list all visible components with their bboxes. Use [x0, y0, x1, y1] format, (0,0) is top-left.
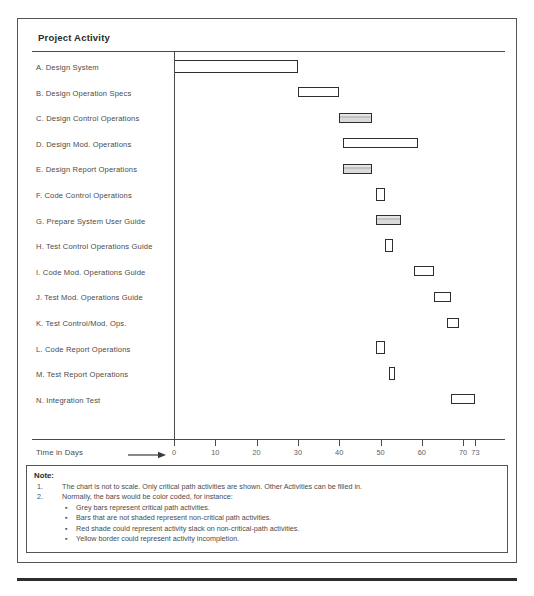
- gantt-row: J. Test Mod. Operations Guide: [18, 287, 516, 313]
- gantt-row: C. Design Control Operations: [18, 108, 516, 134]
- axis-baseline: [32, 439, 505, 440]
- axis-tick: [381, 440, 382, 446]
- gantt-bar-a[interactable]: [174, 60, 298, 73]
- bottom-rule: [17, 578, 517, 581]
- gantt-bar-n[interactable]: [451, 394, 476, 404]
- gantt-row: D. Design Mod. Operations: [18, 134, 516, 160]
- axis-tick-label: 30: [294, 448, 302, 457]
- gantt-row-label-k: K. Test Control/Mod. Ops.: [36, 319, 127, 328]
- gantt-row-label-g: G. Prepare System User Guide: [36, 217, 145, 226]
- gantt-row-label-d: D. Design Mod. Operations: [36, 140, 131, 149]
- gantt-bar-i[interactable]: [414, 266, 435, 276]
- axis-caption: Time in Days: [36, 448, 83, 457]
- gantt-row-label-n: N. Integration Test: [36, 396, 100, 405]
- gantt-row: A. Design System: [18, 57, 516, 83]
- note-item-number: 1.: [37, 482, 43, 493]
- note-bullet-item: ▪Yellow border could represent activity …: [34, 534, 500, 545]
- document-frame: Project Activity A. Design SystemB. Desi…: [17, 18, 517, 563]
- gantt-bar-d[interactable]: [343, 138, 417, 148]
- gantt-row-label-j: J. Test Mod. Operations Guide: [36, 293, 143, 302]
- axis-tick: [422, 440, 423, 446]
- gantt-row: N. Integration Test: [18, 390, 516, 416]
- gantt-row-label-f: F. Code Control Operations: [36, 191, 132, 200]
- gantt-row-label-l: L. Code Report Operations: [36, 345, 131, 354]
- gantt-row: L. Code Report Operations: [18, 339, 516, 365]
- axis-tick: [463, 440, 464, 446]
- gantt-row: F. Code Control Operations: [18, 185, 516, 211]
- axis-tick-label: 70: [459, 448, 467, 457]
- bullet-square-icon: ▪: [65, 513, 67, 524]
- gantt-bar-h[interactable]: [385, 239, 393, 252]
- gantt-plot-area: A. Design SystemB. Design Operation Spec…: [18, 52, 516, 440]
- note-numbered-list: 1.The chart is not to scale. Only critic…: [34, 482, 500, 503]
- note-heading: Note:: [34, 471, 500, 480]
- axis-tick-label: 60: [418, 448, 426, 457]
- axis-tick-label: 40: [335, 448, 343, 457]
- gantt-row: M. Test Report Operations: [18, 364, 516, 390]
- axis-tick-label: 10: [211, 448, 219, 457]
- gantt-row: H. Test Control Operations Guide: [18, 236, 516, 262]
- note-item-number: 2.: [37, 492, 43, 503]
- axis-tick: [215, 440, 216, 446]
- gantt-row: E. Design Report Operations: [18, 159, 516, 185]
- axis-tick-label: 0: [172, 448, 176, 457]
- gantt-row: B. Design Operation Specs: [18, 83, 516, 109]
- gantt-row-label-c: C. Design Control Operations: [36, 114, 139, 123]
- gantt-row-label-i: I. Code Mod. Operations Guide: [36, 268, 145, 277]
- note-box: Note: 1.The chart is not to scale. Only …: [26, 465, 508, 553]
- gantt-bar-l[interactable]: [376, 341, 384, 354]
- axis-tick-label: 73: [471, 448, 479, 457]
- gantt-row: K. Test Control/Mod. Ops.: [18, 313, 516, 339]
- axis-tick: [475, 440, 476, 446]
- axis-tick-label: 50: [376, 448, 384, 457]
- gantt-bar-e[interactable]: [343, 164, 372, 174]
- gantt-bar-k[interactable]: [447, 318, 459, 328]
- gantt-row-label-e: E. Design Report Operations: [36, 165, 137, 174]
- page-title: Project Activity: [38, 32, 110, 43]
- axis-origin-line: [174, 52, 175, 439]
- axis-tick-label: 20: [252, 448, 260, 457]
- gantt-bar-f[interactable]: [376, 188, 384, 201]
- gantt-bar-j[interactable]: [434, 292, 451, 302]
- gantt-bar-g[interactable]: [376, 215, 401, 225]
- gantt-row-label-b: B. Design Operation Specs: [36, 89, 131, 98]
- axis-tick: [339, 440, 340, 446]
- gantt-bar-m[interactable]: [389, 367, 395, 380]
- gantt-row: I. Code Mod. Operations Guide: [18, 262, 516, 288]
- gantt-bar-b[interactable]: [298, 87, 339, 97]
- bullet-square-icon: ▪: [65, 534, 67, 545]
- gantt-row-label-m: M. Test Report Operations: [36, 370, 128, 379]
- gantt-row: G. Prepare System User Guide: [18, 211, 516, 237]
- axis-tick: [174, 440, 175, 446]
- note-bullet-item: ▪Bars that are not shaded represent non-…: [34, 513, 500, 524]
- right-arrow-icon: [128, 451, 166, 459]
- note-numbered-item: 1.The chart is not to scale. Only critic…: [34, 482, 500, 493]
- axis-tick: [298, 440, 299, 446]
- bullet-square-icon: ▪: [65, 524, 67, 535]
- note-bullet-item: ▪Grey bars represent critical path activ…: [34, 503, 500, 514]
- axis-tick: [257, 440, 258, 446]
- note-bullet-item: ▪Red shade could represent activity slac…: [34, 524, 500, 535]
- note-bullet-list: ▪Grey bars represent critical path activ…: [34, 503, 500, 545]
- note-numbered-item: 2.Normally, the bars would be color code…: [34, 492, 500, 503]
- gantt-row-label-h: H. Test Control Operations Guide: [36, 242, 153, 251]
- bullet-square-icon: ▪: [65, 503, 67, 514]
- gantt-row-label-a: A. Design System: [36, 63, 99, 72]
- gantt-bar-c[interactable]: [339, 113, 372, 123]
